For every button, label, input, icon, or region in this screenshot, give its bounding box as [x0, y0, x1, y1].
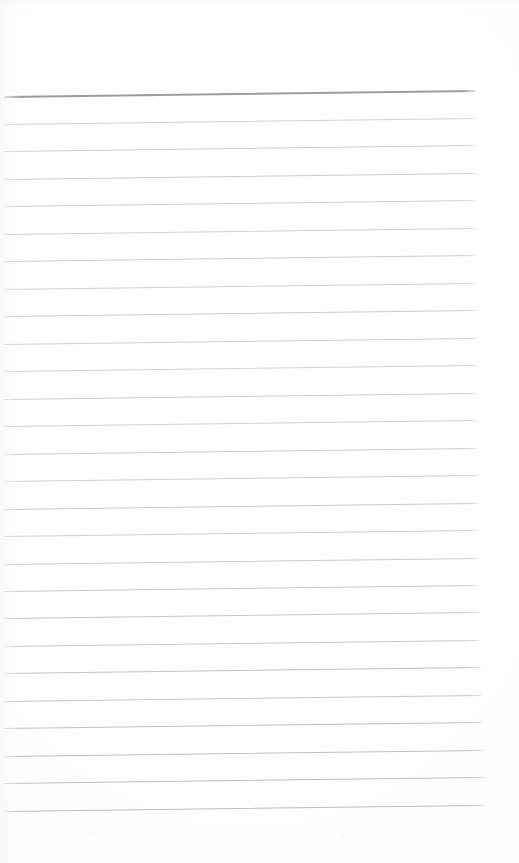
rule-line [4, 530, 478, 537]
rule-line-ink [4, 640, 480, 647]
rule-line [4, 255, 476, 262]
rule-line-ink [4, 558, 479, 565]
rule-line-ink [4, 365, 477, 372]
rule-line-ink [4, 448, 477, 455]
rule-line [4, 722, 483, 729]
rule-line-ink [4, 173, 476, 180]
rule-line-ink [4, 118, 476, 125]
rule-line [4, 90, 476, 98]
rule-line-ink [4, 283, 476, 290]
rule-line-ink [4, 695, 482, 702]
rule-line [4, 750, 484, 757]
rule-line [4, 640, 480, 647]
rule-line [4, 228, 476, 235]
rule-line-ink [4, 338, 477, 345]
rule-line-ink [4, 393, 477, 400]
rule-line-ink [4, 310, 477, 317]
rule-line [4, 338, 477, 345]
rule-line [4, 777, 485, 784]
rule-line-ink [4, 667, 481, 674]
rule-line-ink [4, 90, 476, 98]
rule-line-ink [4, 503, 478, 510]
rule-line-ink [4, 530, 478, 537]
rule-line [4, 173, 476, 180]
rule-line [4, 612, 480, 619]
rule-line-ink [4, 585, 479, 592]
rule-line [4, 695, 482, 702]
rule-line-ink [4, 200, 476, 207]
rule-line-ink [4, 777, 485, 784]
rule-line [4, 310, 477, 317]
rule-line [4, 448, 477, 455]
rule-line-ink [4, 722, 483, 729]
rule-line-ink [4, 805, 485, 812]
rule-line [4, 365, 477, 372]
rule-line [4, 200, 476, 207]
rule-line [4, 503, 478, 510]
rule-line [4, 667, 481, 674]
rule-line-ink [4, 228, 476, 235]
rule-line [4, 558, 479, 565]
rule-line-ink [4, 145, 476, 152]
rule-line [4, 420, 477, 427]
rule-line [4, 145, 476, 152]
rule-line [4, 805, 485, 812]
rule-line [4, 283, 476, 290]
scanned-page [0, 0, 519, 863]
rule-line-ink [4, 420, 477, 427]
ruled-lines-group [0, 0, 519, 863]
rule-line [4, 585, 479, 592]
rule-line [4, 118, 476, 125]
rule-line-ink [4, 750, 484, 757]
rule-line [4, 475, 478, 482]
rule-line-ink [4, 475, 478, 482]
rule-line [4, 393, 477, 400]
rule-line-ink [4, 612, 480, 619]
rule-line-ink [4, 255, 476, 262]
